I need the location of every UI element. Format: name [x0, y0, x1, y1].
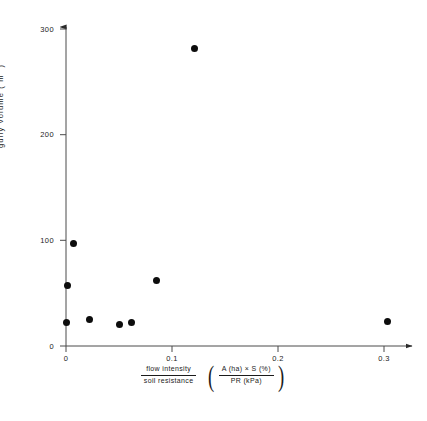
scatter-chart-figure: 300 200 100 0 0 0.1 0.2 0.3 gully volume… — [0, 0, 427, 421]
data-point — [86, 316, 93, 323]
x-tick-label-0.3: 0.3 — [369, 355, 399, 363]
x-tick-label-0.1: 0.1 — [157, 355, 187, 363]
formula-numerator: A (ha) × S (%) — [219, 365, 274, 375]
data-point — [153, 277, 160, 284]
ratio-fraction: flow intensity soil resistance — [141, 365, 197, 386]
left-paren: ( — [208, 364, 214, 387]
y-tick-label-100: 100 — [20, 237, 54, 245]
y-tick-label-0: 0 — [20, 343, 54, 351]
data-point — [70, 240, 77, 247]
formula-fraction: A (ha) × S (%) PR (kPa) — [219, 365, 274, 386]
formula-denominator: PR (kPa) — [228, 376, 265, 386]
y-tick-label-200: 200 — [20, 131, 54, 139]
plot-area — [66, 22, 396, 346]
right-paren: ) — [278, 364, 284, 387]
x-tick-label-0: 0 — [51, 355, 81, 363]
x-axis-ticks — [66, 346, 384, 352]
formula-group: ( A (ha) × S (%) PR (kPa) ) — [206, 364, 286, 387]
data-point — [64, 282, 71, 289]
y-axis-title-main: gully volume ( m — [0, 74, 5, 148]
data-point — [63, 319, 70, 326]
data-point — [128, 319, 135, 326]
ratio-denominator: soil resistance — [141, 376, 197, 386]
data-point — [384, 318, 391, 325]
data-point — [116, 321, 123, 328]
x-axis-caption: flow intensity soil resistance ( A (ha) … — [0, 364, 427, 387]
y-axis-title: gully volume ( m3 ) — [0, 64, 5, 148]
data-point — [191, 45, 198, 52]
y-tick-label-300: 300 — [20, 26, 54, 34]
ratio-numerator: flow intensity — [143, 365, 194, 375]
y-axis-title-close: ) — [0, 64, 5, 71]
